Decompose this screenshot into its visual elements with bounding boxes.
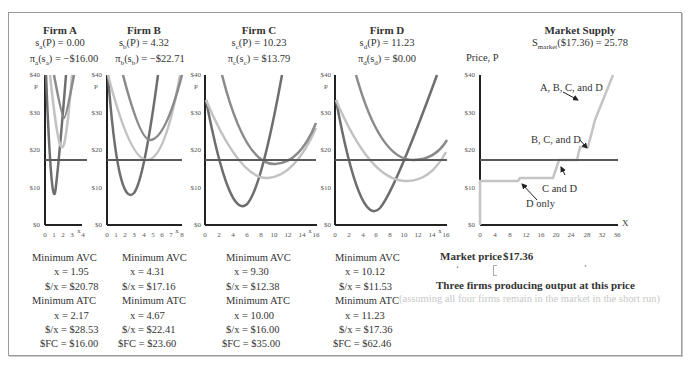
svg-text:3: 3 (132, 231, 136, 239)
svg-text:16: 16 (538, 231, 546, 239)
svg-text:8: 8 (388, 231, 392, 239)
svg-text:$10: $10 (191, 184, 202, 192)
svg-text:6: 6 (245, 231, 249, 239)
svg-text:P: P (34, 83, 38, 91)
svg-text:14: 14 (429, 231, 437, 239)
atc-cost: $/x = $17.36 (335, 323, 400, 337)
svg-text:0: 0 (203, 231, 207, 239)
market-chart: $40 $30 $20 $10 $0 0 4 8 12 16 20 24 28 … (465, 71, 622, 239)
svg-text:P: P (94, 83, 98, 91)
min-avc-label: Minimum AVC (122, 251, 187, 265)
svg-text:$40: $40 (465, 71, 476, 79)
fixed-cost: $FC = $62.46 (333, 337, 400, 351)
market-price-slider[interactable]: ‘ ’ (452, 265, 588, 275)
svg-text:$30: $30 (321, 109, 332, 117)
svg-text:$30: $30 (465, 109, 476, 117)
short-run-note: (assuming all four firms remain in the m… (399, 293, 660, 304)
svg-text:28: 28 (584, 231, 592, 239)
market-price-value: $17.36 (503, 250, 533, 262)
firm-a-chart: $40 $30 $20 $10 $0 P 0 1 2 3 x 4 (30, 71, 88, 239)
svg-text:4: 4 (81, 231, 85, 239)
svg-text:8: 8 (180, 231, 184, 239)
svg-text:10: 10 (401, 231, 409, 239)
svg-text:24: 24 (568, 231, 576, 239)
svg-text:4: 4 (361, 231, 365, 239)
svg-text:2: 2 (123, 231, 127, 239)
min-atc-label: Minimum ATC (32, 294, 98, 308)
svg-text:4: 4 (231, 231, 235, 239)
min-atc-label: Minimum ATC (226, 294, 291, 308)
svg-text:$30: $30 (92, 109, 103, 117)
firm-a-stats: Minimum AVC x = 1.95 $/x = $20.78 Minimu… (32, 251, 98, 352)
svg-text:5: 5 (151, 231, 155, 239)
min-avc-label: Minimum AVC (226, 251, 291, 265)
avc-cost: $/x = $20.78 (32, 280, 98, 294)
svg-text:6: 6 (160, 231, 164, 239)
svg-text:12: 12 (415, 231, 423, 239)
annotation-bcd: B, C, and D (531, 134, 581, 145)
svg-text:1: 1 (114, 231, 118, 239)
avc-x: x = 4.31 (122, 265, 187, 279)
atc-cost: $/x = $28.53 (32, 323, 98, 337)
firm-c-chart: $40 $30 $20 $10 $0 P 0 2 4 6 8 10 12 14 … (191, 71, 321, 239)
firm-d-chart: $40 $30 $20 $10 $0 P 0 2 4 6 8 10 12 14 … (321, 71, 451, 239)
svg-text:$20: $20 (92, 146, 103, 154)
svg-text:2: 2 (347, 231, 351, 239)
svg-text:$40: $40 (191, 71, 202, 79)
svg-text:2: 2 (61, 231, 65, 239)
min-avc-label: Minimum AVC (32, 251, 98, 265)
svg-text:$0: $0 (33, 221, 41, 229)
market-price-label: Market price (440, 250, 502, 262)
svg-text:12: 12 (523, 231, 531, 239)
annotation-abcd: A, B, C, and D (540, 82, 603, 93)
svg-text:6: 6 (374, 231, 378, 239)
slider-thumb[interactable] (493, 265, 497, 276)
atc-x: x = 2.17 (32, 309, 98, 323)
atc-cost: $/x = $16.00 (226, 323, 291, 337)
firm-d-stats: Minimum AVC x = 10.12 $/x = $11.53 Minim… (335, 251, 400, 352)
avc-x: x = 10.12 (335, 265, 400, 279)
firms-producing-message: Three firms producing output at this pri… (436, 279, 635, 291)
avc-cost: $/x = $17.16 (122, 280, 187, 294)
svg-text:10: 10 (271, 231, 279, 239)
atc-cost: $/x = $22.41 (122, 323, 187, 337)
svg-text:$40: $40 (92, 71, 103, 79)
svg-text:8: 8 (508, 231, 512, 239)
svg-text:$0: $0 (95, 221, 103, 229)
svg-text:0: 0 (43, 231, 47, 239)
svg-text:20: 20 (553, 231, 561, 239)
svg-text:1: 1 (52, 231, 56, 239)
firm-c-stats: Minimum AVC x = 9.30 $/x = $12.38 Minimu… (226, 251, 291, 352)
svg-text:7: 7 (169, 231, 173, 239)
avc-x: x = 9.30 (226, 265, 291, 279)
svg-text:0: 0 (478, 231, 482, 239)
svg-text:16: 16 (313, 231, 321, 239)
svg-text:$20: $20 (465, 146, 476, 154)
min-avc-label: Minimum AVC (335, 251, 400, 265)
annotation-d-only: D only (526, 198, 555, 209)
svg-text:0: 0 (333, 231, 337, 239)
avc-cost: $/x = $12.38 (226, 280, 291, 294)
min-atc-label: Minimum ATC (335, 294, 400, 308)
fixed-cost: $FC = $35.00 (222, 337, 291, 351)
atc-x: x = 4.67 (122, 309, 187, 323)
svg-text:36: 36 (614, 231, 622, 239)
slider-right-tick-icon: ’ (584, 263, 587, 273)
svg-text:$30: $30 (191, 109, 202, 117)
firm-b-stats: Minimum AVC x = 4.31 $/x = $17.16 Minimu… (122, 251, 187, 352)
svg-text:$30: $30 (30, 109, 41, 117)
svg-text:14: 14 (299, 231, 307, 239)
svg-text:$10: $10 (92, 184, 103, 192)
svg-text:2: 2 (217, 231, 221, 239)
atc-x: x = 10.00 (226, 309, 291, 323)
svg-text:$20: $20 (321, 146, 332, 154)
fixed-cost: $FC = $23.60 (118, 337, 187, 351)
firm-b-chart: $40 $30 $20 $10 $0 P 0 1 2 3 4 5 6 7 x 8 (92, 71, 185, 239)
svg-text:$10: $10 (321, 184, 332, 192)
svg-text:x: x (175, 227, 179, 235)
min-atc-label: Minimum ATC (122, 294, 187, 308)
svg-text:$20: $20 (191, 146, 202, 154)
svg-text:16: 16 (443, 231, 451, 239)
avc-cost: $/x = $11.53 (335, 280, 400, 294)
svg-text:$10: $10 (30, 184, 41, 192)
